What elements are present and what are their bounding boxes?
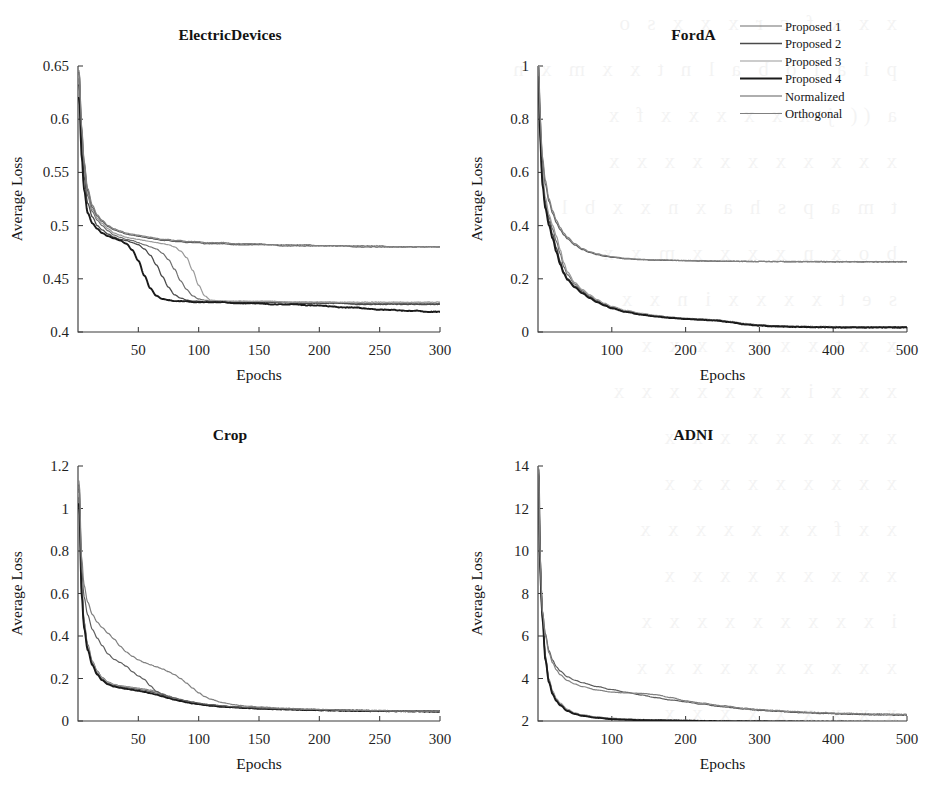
x-tick-label: 200 <box>308 342 331 358</box>
chart-crop: 00.20.40.60.811.250100150200250300Epochs… <box>0 400 460 791</box>
chart-electricdevices: 0.40.450.50.550.60.6550100150200250300Ep… <box>0 0 460 400</box>
panel-title-crop: Crop <box>0 426 460 444</box>
y-tick-label: 0.6 <box>50 586 69 602</box>
curve-proposed-4 <box>78 504 440 711</box>
axis-spines <box>538 466 907 721</box>
curves-group <box>538 66 907 328</box>
axis-spines <box>538 66 907 332</box>
y-axis-label: Average Loss <box>8 157 25 242</box>
panel-crop: Crop 00.20.40.60.811.250100150200250300E… <box>0 400 460 791</box>
legend-label-3: Proposed 3 <box>785 55 841 69</box>
x-axis-label: Epochs <box>700 755 746 772</box>
y-tick-label: 0.8 <box>510 111 529 127</box>
y-tick-label: 0.5 <box>50 218 69 234</box>
y-axis-label: Average Loss <box>8 551 25 636</box>
y-tick-label: 0.2 <box>510 271 529 287</box>
curve-orthogonal <box>78 70 440 247</box>
x-tick-label: 100 <box>601 342 624 358</box>
x-tick-label: 300 <box>748 342 771 358</box>
legend-label-5: Normalized <box>785 90 845 104</box>
chart-adni: 2468101214100200300400500EpochsAverage L… <box>460 400 927 791</box>
curve-normalized <box>538 66 907 262</box>
curve-proposed-4 <box>538 475 907 723</box>
curve-proposed-2 <box>538 472 907 722</box>
x-tick-label: 500 <box>896 731 919 747</box>
y-tick-label: 0.8 <box>50 543 69 559</box>
curve-proposed-4 <box>78 98 440 312</box>
y-tick-label: 0.6 <box>50 111 69 127</box>
x-tick-label: 100 <box>187 342 210 358</box>
x-tick-label: 100 <box>601 731 624 747</box>
curve-proposed-2 <box>78 85 440 305</box>
curve-proposed-2 <box>538 74 907 327</box>
x-tick-label: 300 <box>429 342 452 358</box>
x-axis-label: Epochs <box>236 366 282 383</box>
y-tick-label: 12 <box>514 501 529 517</box>
y-tick-label: 0.45 <box>43 271 69 287</box>
curve-proposed-3 <box>538 471 907 722</box>
x-tick-label: 150 <box>248 342 271 358</box>
y-tick-label: 0.2 <box>50 671 69 687</box>
curve-normalized <box>78 72 440 247</box>
curve-normalized <box>78 485 440 711</box>
panel-adni: ADNI 2468101214100200300400500EpochsAver… <box>460 400 927 791</box>
x-axis-label: Epochs <box>700 366 746 383</box>
curve-proposed-2 <box>78 498 440 712</box>
y-tick-label: 10 <box>514 543 529 559</box>
curves-group <box>78 70 440 312</box>
x-tick-label: 200 <box>308 731 331 747</box>
y-tick-label: 2 <box>522 713 530 729</box>
chart-forda: 00.20.40.60.81100200300400500EpochsAvera… <box>460 0 927 400</box>
y-tick-label: 4 <box>522 671 530 687</box>
y-tick-label: 6 <box>522 628 530 644</box>
y-tick-label: 0 <box>522 324 530 340</box>
y-tick-label: 0.65 <box>43 58 69 74</box>
curve-orthogonal <box>78 481 440 712</box>
legend-label-4: Proposed 4 <box>785 72 842 86</box>
axis-spines <box>78 466 440 721</box>
y-tick-label: 1 <box>62 501 70 517</box>
y-tick-label: 0.55 <box>43 164 69 180</box>
curve-orthogonal <box>538 467 907 715</box>
y-tick-label: 8 <box>522 586 530 602</box>
curve-orthogonal <box>538 66 907 262</box>
x-tick-label: 50 <box>131 731 146 747</box>
curves-group <box>538 467 907 722</box>
curve-proposed-3 <box>78 76 440 303</box>
x-tick-label: 100 <box>187 731 210 747</box>
y-axis-label: Average Loss <box>468 157 485 242</box>
y-tick-label: 14 <box>514 458 530 474</box>
x-tick-label: 400 <box>822 342 845 358</box>
panel-electricdevices: ElectricDevices 0.40.450.50.550.60.65501… <box>0 0 460 400</box>
x-axis-label: Epochs <box>236 755 282 772</box>
figure-grid: ElectricDevices 0.40.450.50.550.60.65501… <box>0 0 927 791</box>
x-tick-label: 500 <box>896 342 919 358</box>
x-tick-label: 200 <box>674 731 697 747</box>
y-tick-label: 1.2 <box>50 458 69 474</box>
panel-forda: FordA 00.20.40.60.81100200300400500Epoch… <box>460 0 927 400</box>
axis-spines <box>78 66 440 332</box>
x-tick-label: 250 <box>368 731 391 747</box>
curve-proposed-1 <box>538 71 907 327</box>
x-tick-label: 200 <box>674 342 697 358</box>
legend-label-6: Orthogonal <box>785 107 843 121</box>
x-tick-label: 300 <box>748 731 771 747</box>
curve-proposed-1 <box>538 470 907 722</box>
x-tick-label: 150 <box>248 731 271 747</box>
panel-title-forda: FordA <box>460 26 927 44</box>
panel-title-adni: ADNI <box>460 426 927 444</box>
y-axis-label: Average Loss <box>468 551 485 636</box>
curve-proposed-4 <box>538 77 907 328</box>
curve-normalized <box>538 468 907 715</box>
curve-proposed-3 <box>78 494 440 712</box>
y-tick-label: 0.6 <box>510 164 529 180</box>
x-tick-label: 300 <box>429 731 452 747</box>
y-tick-label: 0.4 <box>50 324 69 340</box>
y-tick-label: 1 <box>522 58 530 74</box>
curve-proposed-1 <box>78 489 440 711</box>
x-tick-label: 50 <box>131 342 146 358</box>
x-tick-label: 250 <box>368 342 391 358</box>
x-tick-label: 400 <box>822 731 845 747</box>
y-tick-label: 0 <box>62 713 70 729</box>
curve-proposed-3 <box>538 69 907 328</box>
